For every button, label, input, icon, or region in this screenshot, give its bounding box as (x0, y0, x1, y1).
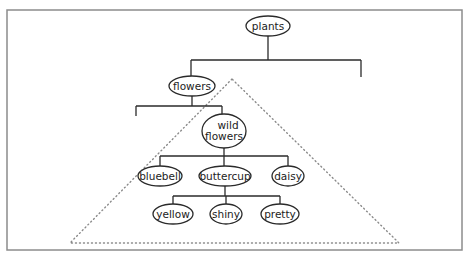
node-label: yellow (156, 208, 190, 220)
node-daisy: daisy (272, 166, 304, 186)
node-bluebell: bluebell (138, 166, 182, 186)
node-pretty: pretty (261, 204, 299, 224)
node-label: flowers (173, 80, 211, 92)
tree-diagram: plantsflowerswildflowersbluebellbuttercu… (0, 0, 467, 257)
node-buttercup: buttercup (199, 166, 251, 186)
node-label: plants (252, 20, 284, 32)
node-plants: plants (246, 16, 290, 36)
node-label: pretty (264, 208, 296, 220)
node-shiny: shiny (210, 204, 242, 224)
node-label: daisy (274, 170, 302, 182)
node-flowers: flowers (169, 76, 215, 96)
node-wild-flowers: wildflowers (202, 114, 246, 148)
node-label: buttercup (199, 170, 251, 182)
node-label: bluebell (139, 170, 181, 182)
node-label: shiny (212, 208, 240, 220)
node-yellow: yellow (153, 204, 193, 224)
node-label: flowers (205, 130, 243, 142)
